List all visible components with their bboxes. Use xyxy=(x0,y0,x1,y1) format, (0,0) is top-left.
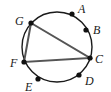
point-c-label: C xyxy=(95,52,104,66)
point-c-marker xyxy=(87,55,92,60)
point-e-marker xyxy=(35,76,40,81)
point-d-label: D xyxy=(84,74,94,88)
point-a-label: A xyxy=(77,2,86,16)
triangle-gcf xyxy=(24,23,90,62)
point-a-marker xyxy=(69,11,74,16)
point-d-marker xyxy=(76,72,81,77)
point-b-marker xyxy=(83,27,88,32)
diagram-canvas: ABCDEFG xyxy=(0,0,111,92)
circle-diagram: ABCDEFG xyxy=(0,0,111,92)
point-g-label: G xyxy=(15,14,24,28)
point-f-marker xyxy=(21,59,26,64)
points-group: ABCDEFG xyxy=(9,2,104,92)
point-e-label: E xyxy=(24,80,33,92)
point-g-marker xyxy=(28,20,33,25)
point-b-label: B xyxy=(93,23,101,37)
point-f-label: F xyxy=(9,56,18,70)
